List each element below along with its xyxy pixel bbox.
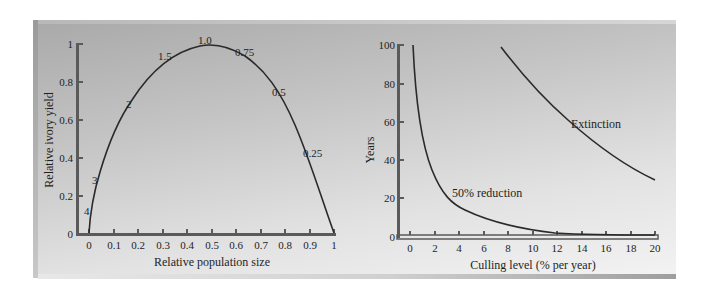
right-y-tick-labels: 100 80 60 40 20 0 — [379, 39, 396, 243]
left-chart: 1 0.8 0.6 0.4 0.2 0 0 0.1 0.2 0.3 0.4 0.… — [42, 34, 337, 269]
x-tick-label: 0.6 — [229, 239, 243, 251]
curve-label: 3 — [92, 174, 98, 186]
y-tick-label: 40 — [384, 154, 396, 166]
curve-label: 0.25 — [303, 147, 323, 159]
x-tick-label: 0 — [407, 242, 413, 254]
x-tick-label: 0.8 — [278, 239, 292, 251]
curve-label: 4 — [84, 205, 90, 217]
y-tick-label: 0.2 — [59, 190, 73, 202]
x-tick-label: 16 — [601, 242, 613, 254]
y-tick-label: 0.8 — [59, 76, 73, 88]
curve-label: 2 — [126, 98, 132, 110]
x-tick-label: 14 — [577, 242, 589, 254]
x-tick-label: 1 — [331, 239, 337, 251]
extinction-label: Extinction — [571, 117, 621, 131]
x-tick-label: 0 — [86, 239, 92, 251]
left-y-tick-labels: 1 0.8 0.6 0.4 0.2 0 — [59, 38, 73, 240]
x-tick-label: 20 — [650, 242, 662, 254]
fifty-percent-reduction-label: 50% reduction — [452, 186, 522, 200]
curve-label: 0.75 — [235, 46, 255, 58]
x-tick-label: 0.3 — [156, 239, 170, 251]
x-tick-label: 2 — [432, 242, 438, 254]
curve-label: 0.5 — [272, 86, 286, 98]
y-tick-label: 20 — [384, 192, 396, 204]
right-x-axis-title: Culling level (% per year) — [470, 258, 595, 272]
x-tick-label: 0.4 — [180, 239, 194, 251]
y-tick-label: 0.4 — [59, 152, 73, 164]
x-tick-label: 10 — [528, 242, 540, 254]
left-y-axis-title: Relative ivory yield — [42, 92, 56, 187]
ivory-yield-curve — [89, 45, 334, 233]
y-tick-label: 0 — [390, 231, 396, 243]
left-y-axis — [76, 43, 83, 235]
x-tick-label: 0.5 — [205, 239, 219, 251]
left-x-axis — [76, 229, 336, 236]
y-tick-label: 0 — [68, 228, 74, 240]
x-tick-label: 0.7 — [254, 239, 268, 251]
x-tick-label: 18 — [626, 242, 638, 254]
y-tick-label: 100 — [379, 39, 396, 51]
x-tick-label: 0.9 — [303, 239, 317, 251]
y-tick-label: 1 — [68, 38, 74, 50]
x-tick-label: 0.2 — [131, 239, 145, 251]
right-x-tick-labels: 0 2 4 6 8 10 12 14 16 18 20 — [407, 242, 661, 254]
x-tick-label: 8 — [505, 242, 511, 254]
curve-label: 1.0 — [198, 34, 212, 46]
fifty-percent-reduction-curve — [413, 45, 655, 235]
x-tick-label: 6 — [481, 242, 487, 254]
curve-label: 1.5 — [158, 50, 172, 62]
y-tick-label: 60 — [384, 116, 396, 128]
charts-svg: 1 0.8 0.6 0.4 0.2 0 0 0.1 0.2 0.3 0.4 0.… — [0, 0, 702, 297]
x-tick-label: 4 — [456, 242, 462, 254]
y-tick-label: 0.6 — [59, 114, 73, 126]
left-x-axis-title: Relative population size — [154, 255, 270, 269]
extinction-curve — [501, 47, 655, 180]
right-y-axis-title: Years — [363, 136, 377, 163]
left-curve-labels: 4 3 2 1.5 1.0 0.75 0.5 0.25 — [84, 34, 323, 217]
x-tick-label: 12 — [552, 242, 563, 254]
x-tick-label: 0.1 — [107, 239, 121, 251]
right-chart: 100 80 60 40 20 0 0 2 4 6 8 10 12 14 16 … — [363, 39, 661, 272]
y-tick-label: 80 — [384, 78, 396, 90]
left-x-tick-labels: 0 0.1 0.2 0.3 0.4 0.5 0.6 0.7 0.8 0.9 1 — [86, 239, 337, 251]
right-y-axis — [397, 44, 404, 238]
